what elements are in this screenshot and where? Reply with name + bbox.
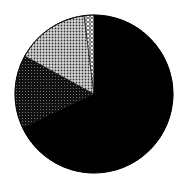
pie-slices xyxy=(15,15,173,173)
pie-chart xyxy=(0,0,189,186)
pie-chart-svg xyxy=(0,0,189,186)
